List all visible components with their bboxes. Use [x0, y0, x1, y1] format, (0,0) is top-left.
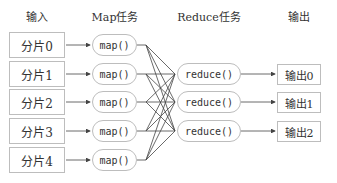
reduce-task-2: reduce(): [177, 120, 241, 142]
map-task-2: map(): [92, 91, 137, 113]
map-task-4: map(): [92, 149, 137, 171]
input-split-0: 分片0: [9, 32, 65, 58]
input-split-4: 分片4: [9, 147, 65, 173]
map-task-1: map(): [92, 63, 137, 85]
map-task-3: map(): [92, 120, 137, 142]
map-task-0: map(): [92, 34, 137, 56]
output-2: 输出2: [277, 121, 321, 142]
input-split-2: 分片2: [9, 89, 65, 115]
reduce-task-0: reduce(): [177, 63, 241, 85]
reduce-task-1: reduce(): [177, 91, 241, 113]
output-1: 输出1: [277, 92, 321, 113]
input-split-3: 分片3: [9, 118, 65, 144]
output-0: 输出0: [277, 64, 321, 85]
input-split-1: 分片1: [9, 61, 65, 87]
